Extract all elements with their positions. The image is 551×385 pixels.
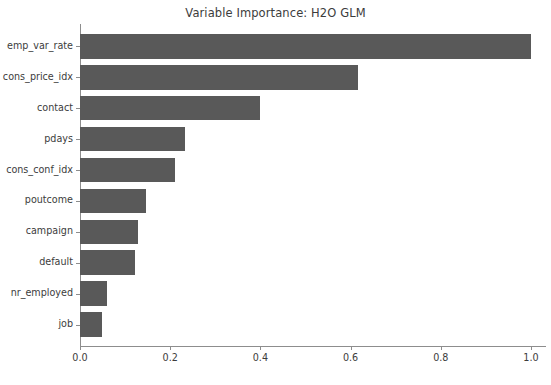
x-tick-label-0.2: 0.2 [163,352,178,363]
y-tick-label-contact: contact [37,103,73,113]
y-tick-label-pdays: pdays [44,134,73,144]
bar-job [80,312,102,337]
bar-row [80,93,531,124]
x-tick-mark [441,346,442,350]
y-tick-label-nr_employed: nr_employed [11,288,73,298]
bar-contact [80,96,260,121]
bar-pdays [80,127,185,152]
x-tick-mark [80,346,81,350]
y-tick-label-campaign: campaign [26,226,73,236]
x-tick-label-0.8: 0.8 [433,352,448,363]
x-axis-spine [80,346,546,347]
x-tick-mark [351,346,352,350]
y-tick-label-default: default [39,257,73,267]
bar-default [80,250,135,275]
bar-row [80,247,531,278]
bar-row [80,62,531,93]
x-tick-label-0.4: 0.4 [253,352,268,363]
y-tick-label-poutcome: poutcome [25,195,73,205]
y-tick-label-emp_var_rate: emp_var_rate [7,41,73,51]
bar-row [80,31,531,62]
x-tick-label-0.0: 0.0 [72,352,87,363]
bar-campaign [80,220,138,245]
y-tick-label-cons_conf_idx: cons_conf_idx [6,165,73,175]
bar-cons_price_idx [80,65,358,90]
x-tick-mark [260,346,261,350]
bar-row [80,278,531,309]
y-tick-label-cons_price_idx: cons_price_idx [3,72,73,82]
bar-row [80,309,531,340]
bar-poutcome [80,189,146,214]
x-tick-label-0.6: 0.6 [343,352,358,363]
chart-title: Variable Importance: H2O GLM [0,6,551,20]
y-tick-label-job: job [58,319,73,329]
bar-row [80,216,531,247]
bar-row [80,124,531,155]
bar-row [80,186,531,217]
bar-emp_var_rate [80,34,531,59]
x-tick-label-1.0: 1.0 [523,352,538,363]
bar-nr_employed [80,281,107,306]
x-tick-mark [531,346,532,350]
figure-canvas: Variable Importance: H2O GLM 0.00.20.40.… [0,0,551,385]
bar-cons_conf_idx [80,158,175,183]
bar-row [80,155,531,186]
x-tick-mark [170,346,171,350]
